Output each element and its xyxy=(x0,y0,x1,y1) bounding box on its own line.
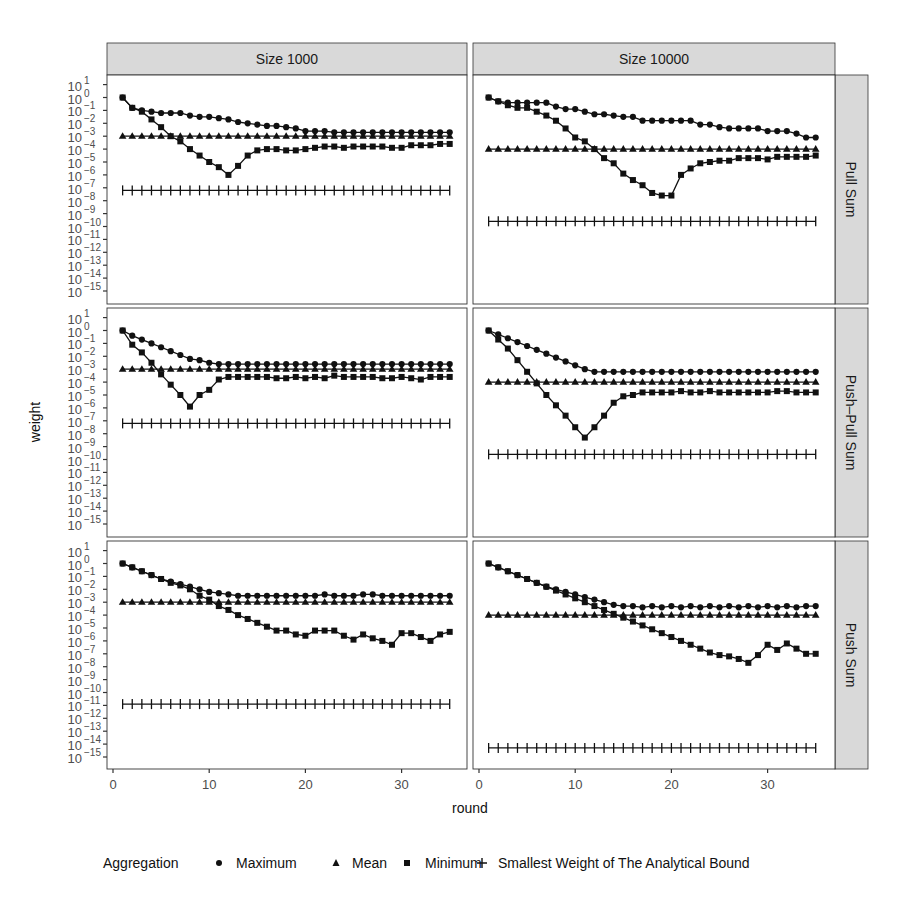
y-axis: 10110010−110−210−310−410−510−610−710−810… xyxy=(68,541,107,766)
column-strips: Size 1000 Size 10000 xyxy=(107,43,835,75)
row-strip-label: Push–Pull Sum xyxy=(843,375,859,471)
triangle-marker-icon xyxy=(333,859,340,866)
row-strip-pull-sum: Pull Sum xyxy=(835,75,868,304)
col-strip-label: Size 10000 xyxy=(619,51,689,67)
panel xyxy=(473,541,835,769)
x-tick-label: 30 xyxy=(394,777,408,792)
panel xyxy=(107,541,467,769)
x-axes: 01020300102030 xyxy=(109,769,774,792)
circle-marker-icon xyxy=(216,860,222,866)
x-tick-label: 10 xyxy=(568,777,582,792)
legend: Aggregation Maximum Mean Minimum Smalles… xyxy=(103,855,750,871)
x-tick-label: 0 xyxy=(475,777,482,792)
row-strip-push-sum: Push Sum xyxy=(835,541,868,769)
x-tick-label: 20 xyxy=(298,777,312,792)
legend-item-maximum: Maximum xyxy=(216,855,297,871)
faceted-weight-chart: Size 1000 Size 10000 Pull Sum Push–Pull … xyxy=(0,0,902,904)
row-strip-push-pull-sum: Push–Pull Sum xyxy=(835,308,868,537)
x-axis: 0102030 xyxy=(109,769,408,792)
legend-label: Mean xyxy=(352,855,387,871)
row-strip-label: Push Sum xyxy=(843,623,859,688)
y-axes: 10110010−110−210−310−410−510−610−710−810… xyxy=(68,75,107,766)
x-tick-label: 30 xyxy=(760,777,774,792)
square-marker-icon xyxy=(404,860,410,866)
y-axis: 10110010−110−210−310−410−510−610−710−810… xyxy=(68,75,107,300)
legend-label: Maximum xyxy=(236,855,297,871)
x-axis: 0102030 xyxy=(475,769,774,792)
x-tick-label: 0 xyxy=(109,777,116,792)
legend-item-minimum: Minimum xyxy=(404,855,482,871)
y-axis-title: weight xyxy=(27,402,43,444)
col-strip-size-1000: Size 1000 xyxy=(107,43,467,75)
legend-item-mean: Mean xyxy=(333,855,388,871)
x-axis-title: round xyxy=(452,800,488,816)
legend-item-analytical-bound: Smallest Weight of The Analytical Bound xyxy=(477,855,750,871)
panel xyxy=(473,308,835,537)
col-strip-size-10000: Size 10000 xyxy=(473,43,835,75)
panels xyxy=(107,75,835,769)
y-axis: 10110010−110−210−310−410−510−610−710−810… xyxy=(68,308,107,533)
x-tick-label: 10 xyxy=(202,777,216,792)
row-strip-label: Pull Sum xyxy=(843,161,859,217)
x-tick-label: 20 xyxy=(664,777,678,792)
legend-label: Smallest Weight of The Analytical Bound xyxy=(498,855,750,871)
legend-title: Aggregation xyxy=(103,855,179,871)
col-strip-label: Size 1000 xyxy=(256,51,318,67)
legend-label: Minimum xyxy=(425,855,482,871)
row-strips: Pull Sum Push–Pull Sum Push Sum xyxy=(835,75,868,769)
